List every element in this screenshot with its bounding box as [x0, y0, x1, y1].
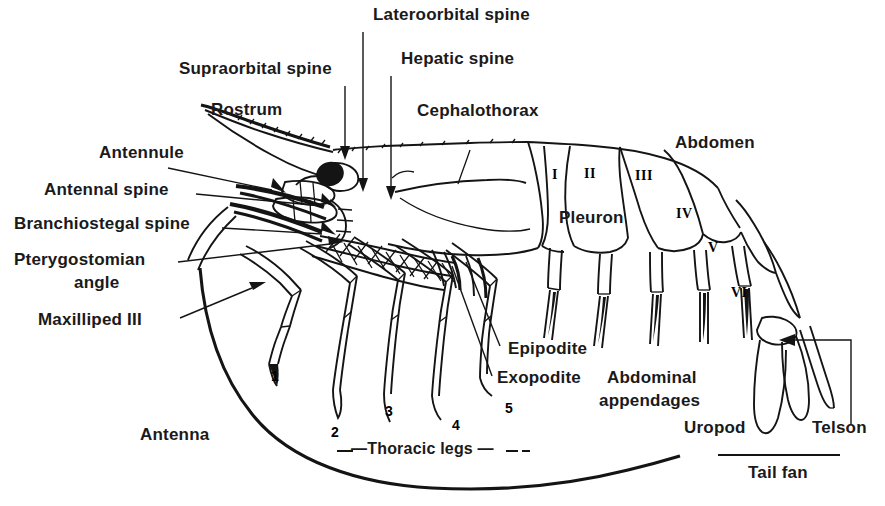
- abdominal-appendages: [544, 246, 752, 348]
- label-cephalothorax: Cephalothorax: [417, 102, 539, 120]
- abdominal-segment-iii: III: [635, 168, 653, 184]
- label-rostrum: Rostrum: [211, 101, 282, 119]
- leader-lines: [168, 32, 851, 455]
- leg-number-3: 3: [385, 403, 393, 419]
- label-antenna: Antenna: [140, 426, 209, 444]
- abdominal-segment-i: I: [552, 167, 558, 183]
- leader-maxilliped: [180, 282, 266, 318]
- label-abdomen: Abdomen: [675, 134, 755, 152]
- label-pterygostomian-angle-line2: angle: [74, 274, 119, 292]
- head-region: [188, 158, 358, 270]
- label-branchiostegal-spine: Branchiostegal spine: [14, 215, 190, 233]
- tail-fan: [754, 317, 834, 434]
- leader-supraorbital: [340, 86, 350, 160]
- label-lateroorbital-spine: Lateroorbital spine: [373, 6, 530, 24]
- leg-number-4: 4: [452, 417, 460, 433]
- label-tail-fan: Tail fan: [748, 464, 808, 482]
- shrimp-anatomy-figure: Lateroorbital spine Hepatic spine Suprao…: [0, 0, 885, 506]
- label-antennule: Antennule: [99, 144, 184, 162]
- label-exopodite: Exopodite: [497, 369, 581, 387]
- cephalothorax-shape: [333, 139, 543, 255]
- leg-number-1: 1: [271, 368, 279, 384]
- label-hepatic-spine: Hepatic spine: [401, 50, 514, 68]
- label-thoracic-legs: —Thoracic legs —: [351, 440, 494, 457]
- leader-lateroorbital: [358, 32, 368, 192]
- leg-number-2: 2: [331, 424, 339, 440]
- label-antennal-spine: Antennal spine: [44, 181, 169, 199]
- label-pleuron: Pleuron: [559, 209, 624, 227]
- label-maxilliped-iii: Maxilliped III: [38, 311, 142, 329]
- abdomen-segments: [528, 142, 800, 318]
- label-abdominal-appendages-line2: appendages: [599, 392, 700, 410]
- label-uropod: Uropod: [684, 419, 746, 437]
- abdominal-segment-vi: VI: [731, 285, 748, 301]
- abdominal-segment-v: V: [708, 240, 719, 256]
- label-epipodite: Epipodite: [508, 340, 587, 358]
- label-telson: Telson: [812, 419, 867, 437]
- leg-number-5: 5: [505, 400, 513, 416]
- label-pterygostomian-angle-line1: Pterygostomian: [14, 251, 145, 269]
- leader-hepatic: [386, 76, 396, 200]
- abdominal-segment-ii: II: [584, 166, 596, 182]
- thoracic-legs: [240, 237, 497, 422]
- label-abdominal-appendages-line1: Abdominal: [607, 369, 697, 387]
- label-supraorbital-spine: Supraorbital spine: [179, 60, 332, 78]
- leader-antennule: [168, 168, 286, 193]
- abdominal-segment-iv: IV: [676, 206, 693, 222]
